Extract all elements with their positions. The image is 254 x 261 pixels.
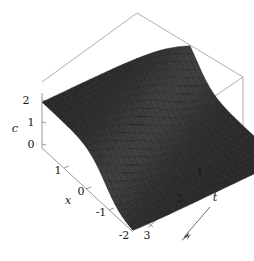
t-tick-label-2: 2	[177, 192, 184, 205]
c-tick-label-1: 1	[28, 116, 35, 129]
arrow-head	[181, 232, 191, 241]
c-tick-label-2: 2	[23, 94, 30, 107]
t-direction-arrow	[181, 207, 210, 241]
surface-plot-figure: 2 1 0 1 0 -1 -2 1 2 3 c x t	[0, 0, 254, 261]
x-tick-label-neg2: -2	[119, 229, 130, 242]
wave-surface-mesh	[42, 46, 254, 231]
arrow-shaft	[184, 207, 210, 237]
t-tick-label-3: 3	[144, 229, 151, 242]
x-axis-label: x	[65, 193, 72, 207]
t-axis-label: t	[213, 190, 218, 204]
x-tick-1	[64, 166, 69, 168]
x-tick-label-neg1: -1	[96, 206, 107, 219]
c-axis-label: c	[12, 121, 19, 135]
c-tick-0	[42, 144, 46, 145]
tick-labels-c: 2 1 0	[23, 94, 35, 151]
x-tick-label-0: 0	[78, 185, 85, 198]
plot-svg: 2 1 0 1 0 -1 -2 1 2 3 c x t	[0, 0, 254, 261]
x-tick-neg1	[109, 208, 114, 210]
x-tick-label-1: 1	[55, 164, 62, 177]
t-tick-label-1: 1	[197, 166, 204, 179]
x-tick-0	[86, 187, 91, 189]
c-tick-1	[42, 122, 46, 123]
c-tick-label-0: 0	[28, 138, 35, 151]
